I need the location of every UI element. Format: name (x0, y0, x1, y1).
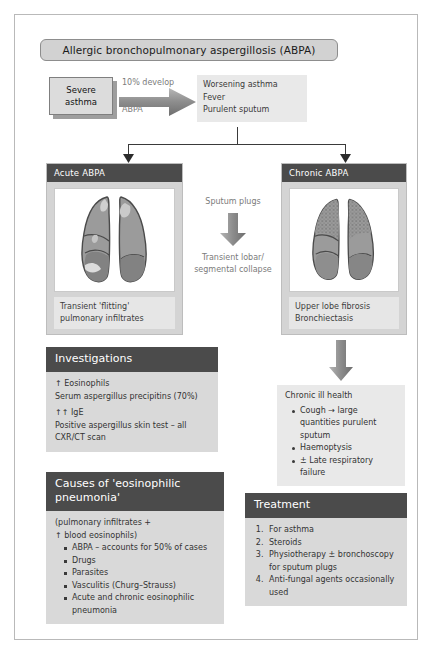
panel-chronic-heading: Chronic ABPA (282, 164, 406, 182)
chronic-ill-health-heading: Chronic ill health (285, 390, 398, 403)
investigation-line: CXR/CT scan (55, 432, 210, 445)
card-investigations: Investigations ↑ Eosinophils Serum asper… (46, 347, 218, 452)
panel-chronic-caption-line2: Bronchiectasis (295, 313, 394, 325)
list-item: Physiotherapy ± bronchoscopy for sputum … (266, 549, 399, 574)
treatment-heading: Treatment (245, 493, 407, 518)
panel-acute-abpa: Acute ABPA (46, 163, 183, 335)
card-treatment: Treatment For asthma Steroids Physiother… (245, 493, 407, 606)
down-arrow-sputum-icon (219, 213, 247, 247)
lungs-acute-illustration (54, 188, 175, 292)
arrow-label-percent: 10% develop (122, 78, 174, 87)
causes-heading: Causes of 'eosinophilic pneumonia' (46, 472, 224, 511)
list-item: Drugs (64, 555, 216, 568)
list-item: For asthma (266, 524, 399, 537)
treatment-body: For asthma Steroids Physiotherapy ± bron… (245, 518, 407, 606)
investigations-body: ↑ Eosinophils Serum aspergillus precipit… (46, 372, 218, 452)
investigation-line: ↑ Eosinophils (55, 378, 210, 391)
panel-chronic-abpa: Chronic ABPA (281, 163, 407, 335)
symptoms-block: Worsening asthma Fever Purulent sputum (197, 75, 307, 122)
list-item: ABPA – accounts for 50% of cases (64, 542, 216, 555)
causes-subtitle-line1: (pulmonary infiltrates + (55, 517, 216, 530)
transient-collapse-line2: segmental collapse (181, 264, 285, 276)
symptom-item: Purulent sputum (203, 104, 301, 117)
list-item: Parasites (64, 567, 216, 580)
transient-collapse-line1: Transient lobar/ (181, 252, 285, 264)
right-arrow-icon (119, 87, 197, 117)
down-arrow-chronic-icon (328, 340, 354, 382)
arrowhead-left-icon (123, 154, 134, 163)
causes-heading-line2: pneumonia' (55, 491, 215, 505)
transient-collapse-label: Transient lobar/ segmental collapse (181, 252, 285, 276)
causes-subtitle-line2: ↑ blood eosinophils) (55, 530, 216, 543)
symptom-item: Worsening asthma (203, 79, 301, 92)
treatment-list: For asthma Steroids Physiotherapy ± bron… (254, 524, 399, 599)
card-causes-eosinophilic-pneumonia: Causes of 'eosinophilic pneumonia' (pulm… (46, 472, 224, 624)
connector-horizontal (128, 144, 346, 145)
list-item: Cough → large quantities purulent sputum (292, 405, 398, 443)
diagram-page: Allergic bronchopulmonary aspergillosis … (0, 0, 434, 657)
list-item: Vasculitis (Churg–Strauss) (64, 580, 216, 593)
investigations-heading: Investigations (46, 347, 218, 372)
severe-asthma-line1: Severe (66, 84, 95, 96)
diagram-frame: Allergic bronchopulmonary aspergillosis … (14, 14, 418, 640)
panel-acute-caption: Transient 'flitting' pulmonary infiltrat… (54, 297, 175, 329)
symptom-item: Fever (203, 92, 301, 105)
causes-body: (pulmonary infiltrates + ↑ blood eosinop… (46, 511, 224, 624)
panel-chronic-caption: Upper lobe fibrosis Bronchiectasis (289, 297, 399, 329)
investigation-line: ↑↑ IgE (55, 407, 210, 420)
severe-asthma-box: Severe asthma (49, 77, 113, 115)
arrowhead-right-icon (340, 154, 351, 163)
connector-vertical-center (237, 127, 238, 145)
causes-list: ABPA – accounts for 50% of cases Drugs P… (55, 542, 216, 617)
list-item: Anti-fungal agents occasionally used (266, 574, 399, 599)
chronic-ill-health-block: Chronic ill health Cough → large quantit… (277, 385, 405, 486)
sputum-plugs-label: Sputum plugs (187, 196, 279, 208)
page-title: Allergic bronchopulmonary aspergillosis … (40, 39, 338, 61)
panel-chronic-caption-line1: Upper lobe fibrosis (295, 301, 394, 313)
lungs-chronic-illustration (289, 188, 399, 292)
causes-heading-line1: Causes of 'eosinophilic (55, 477, 215, 491)
investigation-line: Positive aspergillus skin test – all (55, 420, 210, 433)
investigation-line: Serum aspergillus precipitins (70%) (55, 391, 210, 404)
panel-acute-caption-line2: pulmonary infiltrates (60, 313, 170, 325)
list-item: ± Late respiratory failure (292, 455, 398, 480)
list-item: Steroids (266, 537, 399, 550)
list-item: Acute and chronic eosinophilic pneumonia (64, 592, 216, 617)
list-item: Haemoptysis (292, 442, 398, 455)
chronic-ill-health-list: Cough → large quantities purulent sputum… (285, 405, 398, 480)
panel-acute-heading: Acute ABPA (47, 164, 182, 182)
severe-asthma-line2: asthma (65, 96, 97, 108)
panel-acute-caption-line1: Transient 'flitting' (60, 301, 170, 313)
